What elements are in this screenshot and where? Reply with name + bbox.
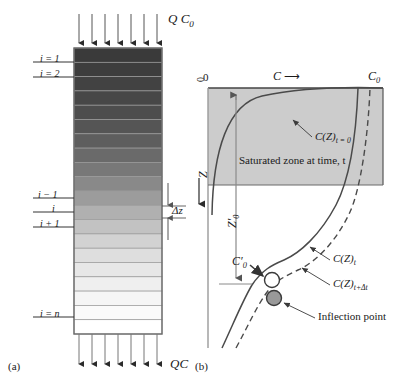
panel-a-bottom-flux-arrows	[79, 334, 157, 364]
panel-b-saturated-zone-label: Saturated zone at time, t	[239, 155, 346, 166]
panel-b-y-axis-label: Z	[197, 171, 209, 178]
column-cell	[74, 191, 162, 205]
x-axis-arrow-icon: ⟶	[284, 70, 300, 82]
panel-a-bottom-flux-label: QC	[170, 357, 188, 370]
panel-a-column-cells	[74, 48, 162, 334]
panel-b-curve-t-label: C(Z)t	[333, 253, 356, 267]
column-cell	[74, 177, 162, 191]
panel-b-c0-prime-label: C′0	[232, 255, 247, 271]
column-cell	[74, 105, 162, 119]
panel-b-marker-open	[265, 273, 280, 288]
column-cell	[74, 320, 162, 334]
panel-a-delta-z-label: Δz	[172, 205, 183, 216]
panel-b-caption: (b)	[195, 361, 208, 372]
panel-b-z0-label: Z′0	[226, 215, 242, 229]
panel-b-c0prime-leader	[250, 265, 263, 276]
panel-a-cell-label-i: i	[52, 204, 55, 214]
column-cell	[74, 134, 162, 148]
column-cell	[74, 234, 162, 248]
column-cell	[74, 91, 162, 105]
column-cell	[74, 205, 162, 219]
panel-b-x-axis-label: C ⟶	[273, 70, 300, 82]
column-cell	[74, 148, 162, 162]
column-cell	[74, 277, 162, 291]
panel-b-curve-tdt-label: C(Z)t+Δt	[333, 278, 368, 292]
panel-a-caption: (a)	[8, 361, 20, 372]
column-cell	[74, 48, 162, 62]
panel-a-cell-label-i-n: i = n	[40, 309, 60, 319]
column-cell	[74, 120, 162, 134]
panel-b-marker-filled	[267, 291, 282, 306]
figure-root: Q C0 QC i = 1 i = 2 i − 1 i i + 1 i = n …	[0, 0, 397, 392]
column-cell	[74, 305, 162, 319]
panel-b-x-max-label: C0	[368, 70, 380, 86]
panel-a-cell-label-i1: i = 1	[40, 54, 60, 64]
column-cell	[74, 291, 162, 305]
panel-b-curve-tdt-leader	[302, 268, 330, 285]
panel-a-top-flux-label: Q C0	[168, 12, 194, 29]
panel-b-curve-t0-label: C(Z)t = 0	[315, 131, 351, 145]
column-cell	[74, 162, 162, 176]
column-cell	[74, 62, 162, 76]
column-cell	[74, 220, 162, 234]
panel-a-cell-label-i-minus-1: i − 1	[38, 190, 58, 200]
panel-b-inflection-label: Inflection point	[318, 311, 386, 322]
column-cell	[74, 248, 162, 262]
figure-svg	[0, 0, 397, 392]
panel-a-top-flux-arrows	[79, 14, 157, 43]
panel-b-inflection-leader	[284, 303, 315, 318]
panel-a-cell-label-i-plus-1: i + 1	[40, 219, 60, 229]
panel-b-y-origin-label: 0	[196, 77, 206, 82]
panel-b-curve-t-leader	[310, 247, 330, 260]
column-cell	[74, 77, 162, 91]
panel-a-cell-label-i2: i = 2	[40, 69, 60, 79]
column-cell	[74, 263, 162, 277]
